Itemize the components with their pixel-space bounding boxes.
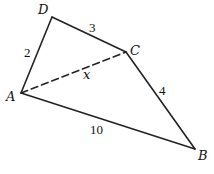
vertex-label-D: D	[37, 2, 49, 17]
edge-label-CB: 4	[159, 83, 166, 98]
edge-label-AB: 10	[90, 122, 103, 137]
edge-AB	[21, 93, 195, 149]
quadrilateral-diagram: D C A B 2 3 4 10 x	[0, 0, 214, 174]
vertex-label-C: C	[130, 43, 140, 58]
edge-label-AC: x	[83, 67, 91, 82]
edge-label-AD: 2	[24, 45, 31, 60]
edge-label-DC: 3	[89, 20, 96, 35]
edge-AC-dashed	[21, 52, 126, 93]
vertex-label-B: B	[197, 148, 208, 163]
edge-CB	[126, 52, 195, 149]
vertex-label-A: A	[5, 89, 15, 104]
